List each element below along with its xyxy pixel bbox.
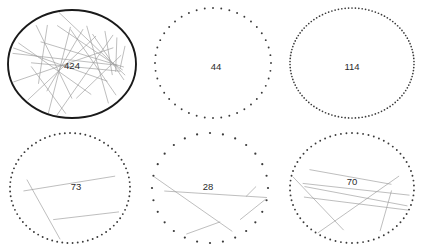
ring-dot	[22, 221, 24, 223]
ring-dot	[261, 32, 263, 34]
ring-dot	[164, 221, 166, 223]
ring-dot	[234, 236, 236, 238]
ring-dot	[174, 104, 176, 106]
ring-dot	[392, 228, 394, 230]
ring-dot	[234, 137, 236, 139]
ring-dot	[381, 14, 383, 16]
ring-dot	[394, 23, 396, 25]
ring-dot	[72, 242, 74, 244]
ring-dot	[294, 165, 296, 167]
ring-dot	[163, 92, 165, 94]
ring-dot	[397, 99, 399, 101]
ring-dot	[209, 132, 211, 134]
ring-dot	[341, 8, 343, 10]
ring-dot	[386, 107, 388, 109]
ring-dot	[222, 241, 224, 243]
ring-dot	[351, 117, 353, 119]
ring-dot	[413, 70, 415, 72]
ring-dot	[228, 9, 230, 11]
ring-dot	[378, 237, 380, 239]
ring-dot	[127, 172, 129, 174]
ring-dot	[378, 138, 380, 140]
ring-dot	[184, 137, 186, 139]
ring-dot	[315, 232, 317, 234]
ring-dot	[401, 30, 403, 32]
circle-count-label: 70	[347, 176, 358, 187]
ring-dot	[301, 95, 303, 97]
ring-dot	[290, 73, 292, 75]
ring-dot	[324, 237, 326, 239]
ring-dot	[122, 213, 124, 215]
circle-outline-dotted	[289, 132, 415, 244]
ring-dot	[89, 135, 91, 137]
ring-dot	[15, 163, 17, 165]
ring-dot	[82, 241, 84, 243]
ring-dot	[291, 49, 293, 51]
chord	[318, 176, 399, 233]
ring-dot	[11, 172, 13, 174]
ring-dot	[383, 140, 385, 142]
ring-dot	[319, 234, 321, 236]
ring-dot	[362, 133, 364, 135]
ring-dot	[296, 161, 298, 163]
ring-dot	[374, 11, 376, 13]
ring-dot	[209, 242, 211, 244]
ring-dot	[124, 209, 126, 211]
ring-dot	[126, 205, 128, 207]
ring-dot	[368, 9, 370, 11]
ring-dot	[338, 116, 340, 118]
circle-cell	[289, 132, 415, 244]
ring-dot	[9, 181, 11, 183]
ring-dot	[381, 111, 383, 113]
ring-dot	[313, 19, 315, 21]
ring-dot	[119, 217, 121, 219]
ring-dot	[411, 76, 413, 78]
ring-dot	[87, 240, 89, 242]
ring-dot	[121, 159, 123, 161]
ring-dot	[299, 217, 301, 219]
ring-dot	[101, 234, 103, 236]
ring-dot	[299, 32, 301, 34]
ring-dot	[174, 20, 176, 22]
ring-dot	[406, 161, 408, 163]
ring-dot	[412, 199, 414, 201]
ring-dot	[92, 238, 94, 240]
ring-dot	[294, 209, 296, 211]
ring-dot	[69, 132, 71, 134]
ring-dot	[105, 231, 107, 233]
ring-dot	[406, 87, 408, 89]
ring-dot	[289, 58, 291, 60]
ring-dot	[18, 159, 20, 161]
ring-dot	[256, 98, 258, 100]
ring-dot	[412, 73, 414, 75]
ring-dot	[236, 112, 238, 114]
ring-dot	[236, 12, 238, 14]
ring-dot	[79, 133, 81, 135]
circle-count-label: 44	[211, 61, 222, 72]
ring-dot	[265, 175, 267, 177]
ring-dot	[296, 213, 298, 215]
ring-dot	[115, 151, 117, 153]
ring-dot	[308, 102, 310, 104]
ring-dot	[413, 61, 415, 63]
ring-dot	[308, 23, 310, 25]
ring-dot	[340, 241, 342, 243]
ring-dot	[358, 117, 360, 119]
ring-dot	[293, 81, 295, 83]
ring-dot	[406, 37, 408, 39]
ring-dot	[413, 67, 415, 69]
ring-dot	[154, 62, 156, 64]
chord	[304, 197, 408, 210]
ring-dot	[56, 241, 58, 243]
ring-dot	[196, 241, 198, 243]
ring-dot	[397, 25, 399, 27]
ring-dot	[54, 134, 56, 136]
cells-layer	[8, 7, 415, 244]
ring-dot	[163, 32, 165, 34]
ring-dot	[351, 132, 353, 134]
ring-dot	[408, 165, 410, 167]
ring-dot	[256, 26, 258, 28]
chord	[31, 66, 66, 113]
ring-dot	[243, 16, 245, 18]
ring-dot	[322, 111, 324, 113]
